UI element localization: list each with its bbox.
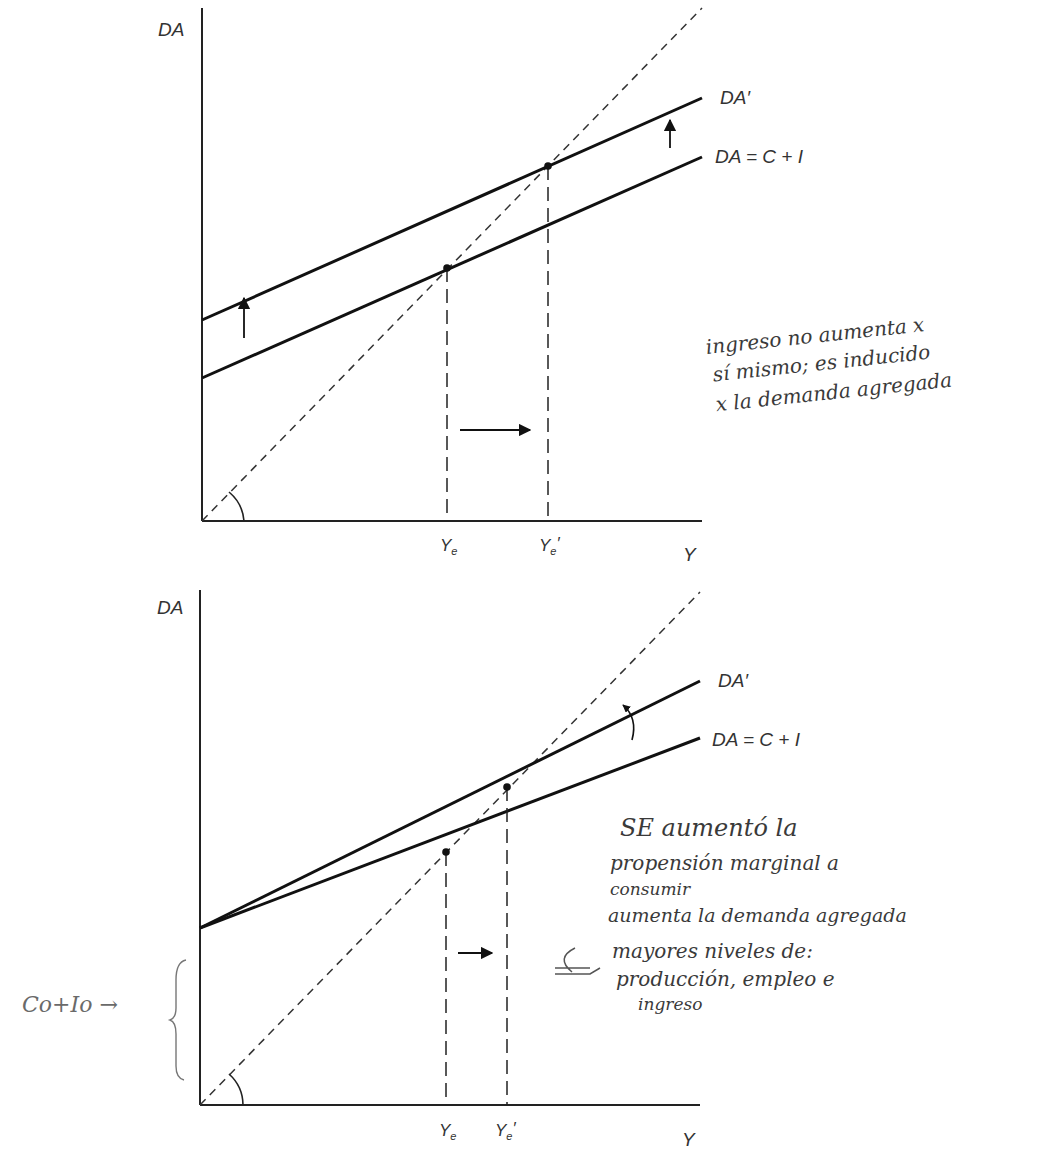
top-equilibrium-point-yep [544,162,552,170]
bottom-x-axis-label: Y [682,1129,696,1150]
top-line-da-base [202,157,702,378]
bottom-handwritten-note: SE aumentó la propensión marginal a cons… [555,814,907,1014]
top-45-degree-line [202,8,702,521]
bottom-tick-ye: Ye [439,1121,456,1142]
bottom-equilibrium-point-yep [503,783,511,791]
bottom-label-da-prime: DA′ [718,670,749,691]
bottom-note-line-1: SE aumentó la [620,814,797,842]
bottom-note-line-2: propensión marginal a [610,851,839,875]
top-label-da-base: DA = C + I [715,146,804,167]
bottom-equilibrium-point-ye [442,848,450,856]
bottom-chart: DA Y Ye Ye′ DA′ DA = C + I Co+Io → SE au… [22,590,907,1150]
bottom-note-line-6: producción, empleo e [616,967,835,991]
diagram-canvas: DA Y Ye Ye′ DA′ DA = C + I ingreso no au… [0,0,1044,1172]
top-y-axis-label: DA [158,19,184,40]
top-label-da-prime: DA′ [720,87,751,108]
bottom-tick-ye-prime: Ye′ [495,1119,516,1142]
bottom-intercept-note: Co+Io → [22,992,118,1017]
bottom-y-axis-label: DA [157,597,183,618]
bottom-note-line-4: aumenta la demanda agregada [608,904,907,926]
top-angle-arc-icon [229,492,244,521]
bottom-note-arrow-icon [555,948,600,974]
bottom-note-line-7: ingreso [638,994,702,1014]
bottom-45-degree-line [200,592,700,1105]
top-x-axis-label: Y [683,544,697,565]
bottom-note-line-3: consumir [610,879,691,899]
bottom-rotation-arrow-icon [623,705,634,740]
top-line-da-prime [202,98,702,320]
bottom-note-line-5: mayores niveles de: [612,939,813,963]
bottom-angle-arc-icon [229,1074,243,1105]
top-equilibrium-point-ye [443,264,451,272]
top-handwritten-note: ingreso no aumenta x sí mismo; es induci… [705,310,954,417]
bottom-intercept-brace-icon [170,960,186,1080]
top-tick-ye-prime: Ye′ [539,534,560,557]
top-tick-ye: Ye [440,536,457,557]
bottom-label-da-base: DA = C + I [712,729,801,750]
top-chart: DA Y Ye Ye′ DA′ DA = C + I ingreso no au… [158,8,953,565]
